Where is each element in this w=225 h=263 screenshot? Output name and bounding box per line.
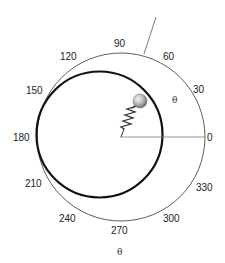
- angle-label-60: 60: [163, 51, 175, 62]
- angle-label-30: 30: [193, 84, 205, 95]
- pendulum-ball-icon: [133, 94, 147, 108]
- angle-label-300: 300: [163, 213, 180, 224]
- bottom-theta-label: θ: [117, 247, 122, 257]
- angle-label-0: 0: [207, 132, 213, 143]
- angle-label-330: 330: [196, 182, 213, 193]
- angle-label-210: 210: [25, 178, 42, 189]
- spring-icon: [121, 103, 138, 137]
- angle-label-270: 270: [111, 225, 128, 236]
- polar-diagram: 0 30 60 90 120 150 180 210 240 270 300 3…: [0, 0, 225, 263]
- inner-theta-label: θ: [172, 95, 177, 105]
- angle-label-180: 180: [13, 132, 30, 143]
- angle-label-120: 120: [60, 51, 77, 62]
- trajectory-circle: [37, 72, 163, 198]
- angle-label-90: 90: [114, 38, 126, 49]
- angle-label-240: 240: [59, 213, 76, 224]
- angle-label-150: 150: [26, 85, 43, 96]
- direction-line: [144, 17, 156, 54]
